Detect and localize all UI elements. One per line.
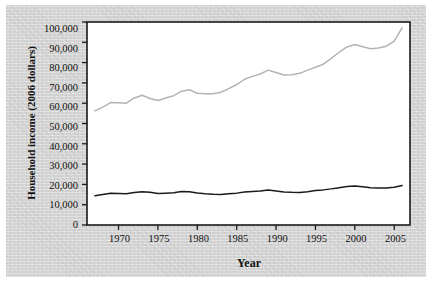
plot-area: [0, 0, 432, 290]
chart-figure: Household income (2006 dollars) Year 100…: [0, 0, 432, 290]
plot-background: [87, 22, 410, 225]
